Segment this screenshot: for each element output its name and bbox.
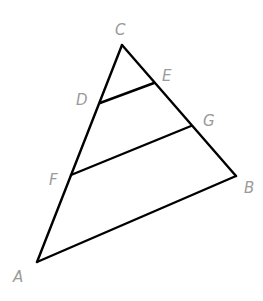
segment-ac (37, 45, 122, 262)
vertex-label-a: A (12, 268, 23, 286)
vertex-label-c: C (115, 21, 126, 39)
segment-fg (71, 126, 191, 175)
triangle-diagram: CEDGFBA (0, 0, 263, 301)
vertex-label-b: B (244, 179, 254, 197)
vertex-label-f: F (49, 171, 58, 189)
segment-cb (122, 45, 236, 176)
segment-de (100, 83, 154, 103)
segments-group (37, 45, 236, 262)
vertex-label-e: E (162, 67, 172, 85)
vertex-label-g: G (203, 112, 215, 130)
vertex-label-d: D (76, 91, 88, 109)
